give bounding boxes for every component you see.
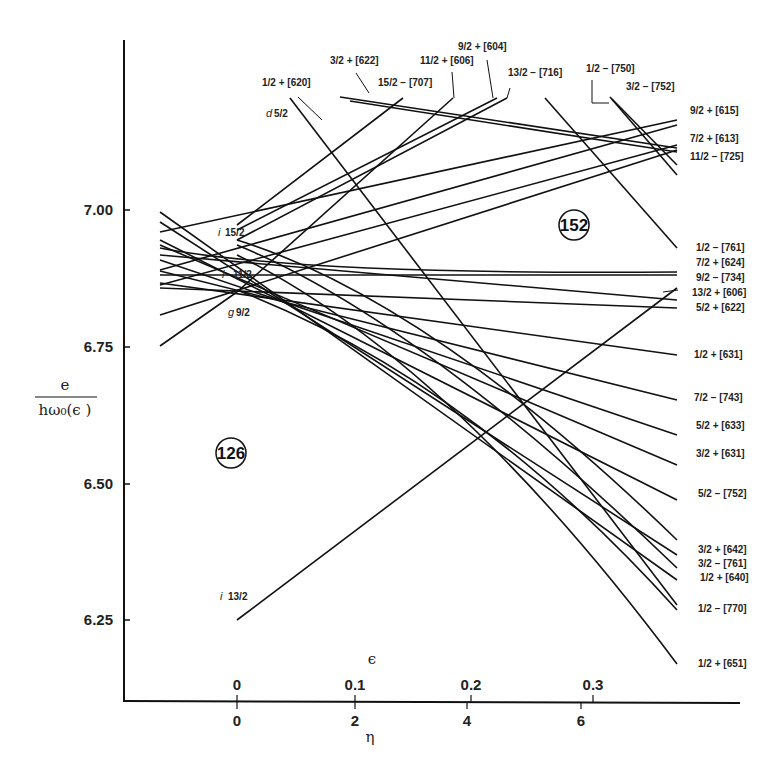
svg-text:13/2 − [716]: 13/2 − [716]	[508, 67, 562, 78]
y-tick-label: 7.00	[84, 201, 113, 218]
svg-text:i: i	[218, 226, 221, 238]
nilsson-diagram: 7.00 6.75 6.50 6.25 e hω₀(ϵ ) 0 0.1 0.2 …	[0, 0, 782, 769]
svg-text:152: 152	[560, 216, 588, 235]
svg-text:13/2: 13/2	[228, 591, 248, 602]
y-tick-label: 6.25	[84, 611, 113, 628]
label-leaders	[298, 60, 678, 292]
svg-text:7/2 + [613]: 7/2 + [613]	[690, 133, 739, 144]
svg-text:9/2: 9/2	[236, 307, 250, 318]
top-labels: 1/2 + [620] 3/2 + [622] 15/2 − [707] 11/…	[262, 41, 675, 92]
eta-tick-label: 0	[233, 712, 241, 729]
y-axis-title-numerator: e	[61, 376, 70, 394]
svg-text:11/2: 11/2	[233, 269, 252, 280]
y-tick-label: 6.75	[84, 338, 113, 355]
svg-text:13/2 + [606]: 13/2 + [606]	[692, 287, 746, 298]
eps-axis-title: ϵ	[368, 650, 376, 668]
svg-text:1/2 − [761]: 1/2 − [761]	[696, 242, 745, 253]
svg-text:5/2 + [622]: 5/2 + [622]	[696, 302, 745, 313]
svg-text:d: d	[266, 107, 273, 119]
svg-text:1/2 + [620]: 1/2 + [620]	[262, 77, 311, 88]
svg-text:11/2 + [606]: 11/2 + [606]	[420, 55, 474, 66]
svg-text:1/2 + [640]: 1/2 + [640]	[700, 572, 749, 583]
right-labels: 9/2 + [615] 7/2 + [613] 11/2 − [725] 1/2…	[690, 105, 749, 669]
svg-text:9/2 + [615]: 9/2 + [615]	[690, 105, 739, 116]
eta-tick-label: 4	[463, 712, 472, 729]
svg-text:3/2 + [642]: 3/2 + [642]	[698, 544, 747, 555]
svg-text:9/2 − [734]: 9/2 − [734]	[696, 272, 745, 283]
eta-tick-label: 2	[351, 712, 359, 729]
svg-text:3/2 + [631]: 3/2 + [631]	[696, 448, 745, 459]
spherical-labels: i 15/2 i 11/2 g 9/2 d 5/2 i 13/2	[218, 107, 288, 602]
svg-text:9/2 + [604]: 9/2 + [604]	[458, 41, 507, 52]
svg-text:1/2 − [750]: 1/2 − [750]	[586, 63, 635, 74]
level-lines	[160, 97, 677, 664]
svg-text:i: i	[222, 268, 225, 280]
y-axis-title-denominator: hω₀(ϵ )	[39, 401, 92, 419]
svg-text:1/2 + [651]: 1/2 + [651]	[698, 658, 747, 669]
svg-text:15/2 − [707]: 15/2 − [707]	[378, 77, 432, 88]
svg-text:3/2 + [622]: 3/2 + [622]	[330, 55, 379, 66]
svg-text:1/2 + [631]: 1/2 + [631]	[694, 349, 743, 360]
eps-tick-label: 0.3	[583, 676, 604, 693]
svg-text:15/2: 15/2	[225, 227, 245, 238]
svg-text:1/2 − [770]: 1/2 − [770]	[698, 603, 747, 614]
svg-text:5/2 + [633]: 5/2 + [633]	[696, 420, 745, 431]
eta-tick-label: 6	[577, 712, 585, 729]
svg-text:5/2 − [752]: 5/2 − [752]	[698, 488, 747, 499]
svg-text:3/2 − [752]: 3/2 − [752]	[626, 81, 675, 92]
eps-tick-label: 0.1	[345, 676, 366, 693]
svg-text:i: i	[220, 590, 223, 602]
svg-text:126: 126	[217, 444, 245, 463]
y-tick-label: 6.50	[84, 475, 113, 492]
eps-tick-label: 0.2	[461, 676, 482, 693]
svg-text:7/2 − [743]: 7/2 − [743]	[694, 392, 743, 403]
svg-text:5/2: 5/2	[274, 108, 288, 119]
svg-text:11/2 − [725]: 11/2 − [725]	[690, 151, 744, 162]
svg-text:7/2 + [624]: 7/2 + [624]	[696, 257, 745, 268]
svg-text:g: g	[228, 306, 235, 318]
shell-gap-126: 126	[216, 438, 246, 468]
eps-tick-label: 0	[233, 676, 241, 693]
eta-axis-title: η	[366, 728, 375, 746]
svg-text:3/2 − [761]: 3/2 − [761]	[698, 558, 747, 569]
shell-gap-152: 152	[559, 210, 589, 240]
